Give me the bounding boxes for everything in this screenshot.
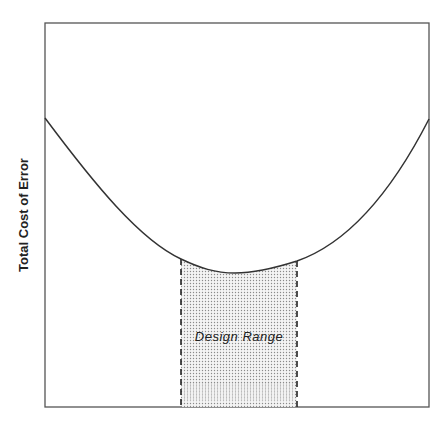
chart-canvas	[0, 0, 447, 423]
design-range-label: Design Range	[195, 329, 283, 344]
y-axis-label: Total Cost of Error	[16, 158, 31, 272]
total-cost-curve	[45, 118, 429, 273]
